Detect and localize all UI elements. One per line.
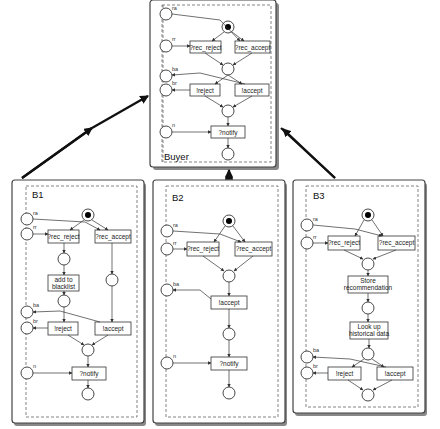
svg-text:recommendation: recommendation <box>344 284 393 291</box>
buyer-frame <box>150 0 276 167</box>
svg-text:!accept: !accept <box>242 87 263 95</box>
svg-text:ba: ba <box>173 281 180 287</box>
svg-text:n: n <box>172 122 175 128</box>
svg-text:B3: B3 <box>313 190 325 201</box>
svg-text:B1: B1 <box>32 189 44 200</box>
svg-text:?rec_reject: ?rec_reject <box>328 239 360 247</box>
place-ba <box>160 70 172 82</box>
token <box>225 24 231 30</box>
svg-text:rr: rr <box>173 240 177 246</box>
svg-text:?rec_reject: ?rec_reject <box>47 233 79 241</box>
svg-text:!reject: !reject <box>336 370 354 378</box>
svg-text:add to: add to <box>54 276 72 283</box>
svg-text:br: br <box>313 363 318 369</box>
b3-net: B3 ra rr ?rec_reject ?rec_accept Store r… <box>293 180 427 416</box>
petri-net-diagram: ra rr ba br n ?rec_reject ?rec_accept !r… <box>0 0 440 429</box>
svg-text:rr: rr <box>172 36 176 42</box>
place-n <box>160 126 172 138</box>
svg-text:?notify: ?notify <box>79 370 99 378</box>
svg-text:?rec_reject: ?rec_reject <box>187 245 219 253</box>
svg-text:n: n <box>173 353 176 359</box>
svg-text:?rec_accept: ?rec_accept <box>235 44 271 52</box>
svg-text:!reject: !reject <box>196 87 214 95</box>
svg-text:br: br <box>33 318 38 324</box>
svg-text:Store: Store <box>360 277 376 284</box>
b1-net: B1 ra rr ?rec_reject ?rec_accept add to … <box>12 180 146 426</box>
place-ra <box>160 8 172 20</box>
place-rr <box>160 40 172 52</box>
svg-text:?rec_accept: ?rec_accept <box>236 245 272 253</box>
place-br <box>160 84 172 96</box>
svg-text:blacklist: blacklist <box>52 283 75 290</box>
b2-net: B2 ra rr ?rec_reject ?rec_accept ba !acc… <box>153 180 287 426</box>
svg-text:ba: ba <box>33 302 40 308</box>
svg-text:!accept: !accept <box>385 370 406 378</box>
svg-text:?notify: ?notify <box>218 129 238 137</box>
svg-text:n: n <box>33 363 36 369</box>
svg-text:?rec_accept: ?rec_accept <box>379 239 415 247</box>
svg-text:?rec_accept: ?rec_accept <box>95 233 131 241</box>
svg-text:br: br <box>172 80 177 86</box>
svg-text:B2: B2 <box>172 192 184 203</box>
svg-text:!accept: !accept <box>219 299 240 307</box>
svg-text:?notify: ?notify <box>219 360 239 368</box>
svg-text:ba: ba <box>313 347 320 353</box>
svg-text:historical data: historical data <box>349 330 389 337</box>
buyer-net: ra rr ba br n ?rec_reject ?rec_accept !r… <box>150 0 279 170</box>
svg-text:rr: rr <box>313 234 317 240</box>
svg-text:!accept: !accept <box>103 325 124 333</box>
svg-text:ba: ba <box>172 66 179 72</box>
svg-text:rr: rr <box>33 224 37 230</box>
svg-text:!reject: !reject <box>54 325 72 333</box>
svg-text:Buyer: Buyer <box>164 151 189 162</box>
svg-text:?rec_reject: ?rec_reject <box>189 44 221 52</box>
